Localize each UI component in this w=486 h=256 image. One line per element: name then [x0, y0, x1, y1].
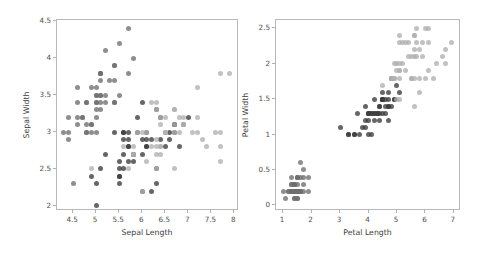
y-tick-label: 4 [46, 53, 51, 62]
x-tick-label: 5 [394, 215, 399, 224]
x-tick-label: 7 [185, 215, 190, 224]
y-tick-mark [272, 27, 275, 28]
y-tick-label: 1 [265, 129, 270, 138]
x-tick-mark [339, 210, 340, 213]
data-point-setosa [75, 115, 80, 120]
data-point-setosa [84, 100, 89, 105]
data-point-versicolor [363, 104, 368, 109]
y-tick-label: 2 [46, 200, 51, 209]
x-tick-label: 6 [422, 215, 427, 224]
data-point-virginica [140, 130, 145, 135]
data-point-setosa [98, 71, 103, 76]
iris-scatter-figure: 4.555.566.577.5822.533.544.5 Sepal Lengt… [0, 0, 486, 256]
x-tick-label: 7.5 [205, 215, 216, 224]
data-point-setosa [75, 100, 80, 105]
x-tick-label: 6 [139, 215, 144, 224]
data-point-virginica [443, 47, 448, 52]
x-tick-mark [396, 210, 397, 213]
plot-area-sepal [56, 19, 238, 210]
x-tick-mark [141, 210, 142, 213]
panel-petal: 123456700.511.522.5 Petal Length Petal W… [243, 0, 486, 256]
data-point-setosa [126, 71, 131, 76]
data-point-virginica [131, 152, 136, 157]
data-point-virginica [172, 107, 177, 112]
data-point-virginica [417, 47, 422, 52]
data-point-setosa [112, 63, 117, 68]
x-tick-label: 4.5 [66, 215, 77, 224]
data-point-setosa [281, 189, 286, 194]
data-point-versicolor [112, 130, 117, 135]
data-point-versicolor [117, 166, 122, 171]
data-point-virginica [163, 115, 168, 120]
data-point-versicolor [369, 132, 374, 137]
data-point-versicolor [126, 130, 131, 135]
data-point-setosa [71, 181, 76, 186]
data-point-setosa [94, 115, 99, 120]
data-point-virginica [195, 130, 200, 135]
data-point-versicolor [158, 137, 163, 142]
x-tick-mark [95, 210, 96, 213]
data-point-setosa [98, 100, 103, 105]
y-tick-mark [53, 205, 56, 206]
data-point-versicolor [163, 144, 168, 149]
data-point-virginica [181, 115, 186, 120]
data-point-virginica [412, 47, 417, 52]
data-point-virginica [195, 85, 200, 90]
x-tick-mark [72, 210, 73, 213]
x-tick-mark [368, 210, 369, 213]
data-point-setosa [306, 189, 311, 194]
data-point-virginica [218, 144, 223, 149]
data-point-versicolor [126, 137, 131, 142]
panel-sepal: 4.555.566.577.5822.533.544.5 Sepal Lengt… [0, 0, 243, 256]
data-point-virginica [412, 104, 417, 109]
data-point-virginica [158, 144, 163, 149]
data-point-setosa [117, 93, 122, 98]
data-point-virginica [218, 71, 223, 76]
data-point-versicolor [135, 115, 140, 120]
data-point-versicolor [131, 159, 136, 164]
data-point-virginica [181, 122, 186, 127]
data-point-virginica [172, 130, 177, 135]
data-point-setosa [66, 130, 71, 135]
data-point-virginica [417, 90, 422, 95]
data-point-virginica [154, 144, 159, 149]
data-point-versicolor [167, 137, 172, 142]
data-point-virginica [400, 61, 405, 66]
data-point-setosa [98, 107, 103, 112]
data-point-setosa [292, 182, 297, 187]
data-point-versicolor [140, 137, 145, 142]
data-point-versicolor [397, 90, 402, 95]
data-point-virginica [397, 76, 402, 81]
y-tick-mark [53, 168, 56, 169]
data-point-virginica [431, 76, 436, 81]
x-tick-label: 7 [451, 215, 456, 224]
data-point-virginica [414, 26, 419, 31]
data-point-virginica [144, 159, 149, 164]
data-point-versicolor [357, 132, 362, 137]
x-tick-label: 2 [308, 215, 313, 224]
data-point-virginica [412, 54, 417, 59]
data-point-versicolor [98, 166, 103, 171]
y-tick-label: 0.5 [259, 164, 270, 173]
data-point-virginica [149, 100, 154, 105]
data-point-virginica [409, 76, 414, 81]
y-tick-mark [272, 134, 275, 135]
data-point-setosa [292, 189, 297, 194]
data-point-setosa [295, 175, 300, 180]
y-tick-mark [272, 204, 275, 205]
y-tick-mark [272, 98, 275, 99]
x-tick-mark [118, 210, 119, 213]
data-point-versicolor [372, 97, 377, 102]
y-tick-mark [272, 169, 275, 170]
x-tick-mark [424, 210, 425, 213]
data-point-virginica [426, 26, 431, 31]
data-point-virginica [406, 40, 411, 45]
data-point-versicolor [89, 174, 94, 179]
data-point-virginica [443, 61, 448, 66]
data-point-versicolor [117, 174, 122, 179]
data-point-versicolor [386, 90, 391, 95]
data-point-virginica [449, 40, 454, 45]
data-point-versicolor [149, 189, 154, 194]
data-point-versicolor [372, 118, 377, 123]
data-point-versicolor [389, 104, 394, 109]
